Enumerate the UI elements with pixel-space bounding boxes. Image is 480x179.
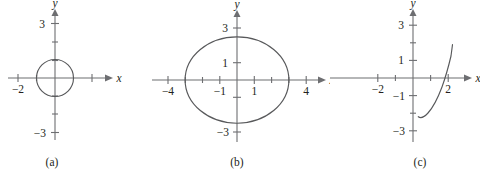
x-tick-label-4-b: 4	[303, 85, 309, 97]
x-tick-label-1-b: 1	[251, 85, 257, 97]
panel-caption-a: (a)	[32, 156, 72, 168]
panel-c-plot: −2 2 3 1 −1 −3 x y	[330, 0, 480, 150]
x-tick-label-2-c: 2	[445, 83, 451, 95]
y-axis-label-c: y	[409, 0, 416, 10]
y-tick-label-minus1-c: −1	[393, 90, 405, 102]
panel-b-plot: −4 −1 1 4 3 1 −3 x y	[150, 0, 330, 150]
x-axis-arrowhead-c	[464, 75, 472, 82]
panel-b: −4 −1 1 4 3 1 −3 x y (b)	[150, 0, 330, 179]
panel-c: −2 2 3 1 −1 −3 x y (c)	[330, 0, 480, 179]
panel-a: −2 3 −3 x y (a)	[0, 0, 150, 179]
y-tick-label-1-c: 1	[398, 54, 404, 66]
y-axis-arrowhead-b	[234, 10, 241, 17]
y-tick-label-minus3-c: −3	[393, 125, 405, 137]
x-tick-label-minus2-a: −2	[12, 83, 24, 95]
figure-root: −2 3 −3 x y (a)	[0, 0, 480, 179]
y-tick-label-3-a: 3	[39, 18, 45, 30]
panel-caption-c: (c)	[400, 156, 440, 168]
x-axis-arrowhead-b	[318, 77, 326, 84]
y-axis-arrowhead-a	[52, 9, 59, 16]
increasing-curve-c	[418, 45, 452, 118]
y-axis-arrowhead-c	[410, 9, 417, 16]
panel-a-plot: −2 3 −3 x y	[0, 0, 150, 150]
y-axis-label-b: y	[233, 0, 240, 11]
y-tick-label-minus3-b: −3	[217, 126, 229, 138]
y-tick-label-minus3-a: −3	[34, 127, 46, 139]
y-tick-label-3-b: 3	[222, 22, 228, 34]
x-tick-label-minus1-b: −1	[214, 85, 226, 97]
x-tick-label-minus4-b: −4	[162, 85, 174, 97]
x-axis-label-c: x	[474, 72, 480, 84]
y-axis-label-a: y	[51, 0, 58, 10]
y-tick-label-3-c: 3	[398, 19, 404, 31]
x-tick-label-minus2-c: −2	[372, 83, 384, 95]
y-tick-label-1-b: 1	[222, 57, 228, 69]
x-axis-arrowhead-a	[105, 75, 113, 82]
panel-caption-b: (b)	[217, 156, 257, 168]
x-axis-label-a: x	[115, 72, 122, 84]
